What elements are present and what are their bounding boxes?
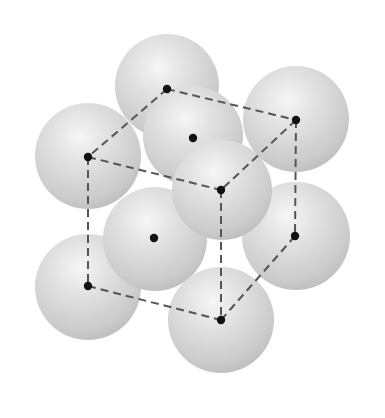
- lattice-point-corner-bottom-back-right: [291, 232, 299, 240]
- lattice-point-corner-top-back-right: [292, 116, 300, 124]
- lattice-point-face-center-left: [150, 234, 158, 242]
- lattice-point-corner-top-front-right: [217, 186, 225, 194]
- lattice-point-corner-top-back-left: [163, 85, 171, 93]
- atom-spheres: [35, 34, 350, 373]
- lattice-point-corner-bottom-front-left: [84, 282, 92, 290]
- lattice-point-corner-top-front-left: [84, 153, 92, 161]
- lattice-point-face-center-top: [189, 134, 197, 142]
- lattice-point-corner-bottom-front-right: [217, 316, 225, 324]
- unit-cell-svg: [0, 0, 385, 418]
- edge-back-right-vertical: [295, 120, 296, 236]
- unit-cell-diagram: [0, 0, 385, 418]
